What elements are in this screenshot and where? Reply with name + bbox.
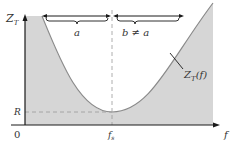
x-axis-label: f (223, 129, 230, 140)
right-span-arrowhead-right-icon (179, 14, 184, 18)
resonance-label: fs (107, 130, 114, 141)
right-span-brace (117, 18, 179, 24)
y-axis-label: ZT (5, 12, 20, 27)
left-span-arrowhead-right-icon (106, 14, 111, 18)
origin-label: 0 (14, 129, 20, 140)
x-axis-arrow-icon (213, 123, 220, 128)
r-level-label: R (13, 107, 21, 117)
impedance-diagram: ZT a b ≠ a ZT(f) R 0 fs f (0, 0, 240, 148)
left-span-label: a (74, 27, 80, 38)
right-span-label: b ≠ a (122, 27, 149, 38)
left-span-brace (46, 18, 108, 24)
right-span-arrowhead-left-icon (113, 14, 118, 18)
